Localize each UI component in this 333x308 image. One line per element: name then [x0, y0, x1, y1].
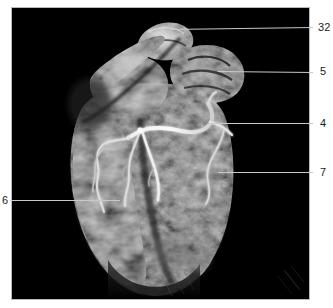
leader-line-7[interactable]: [218, 172, 313, 173]
leader-line-4[interactable]: [208, 123, 313, 124]
label-6[interactable]: 6: [2, 195, 8, 206]
cardiac-image-panel[interactable]: [11, 7, 310, 300]
label-4[interactable]: 4: [320, 118, 326, 129]
label-7[interactable]: 7: [320, 167, 326, 178]
left-shoulder-tissue: [68, 78, 112, 130]
label-5[interactable]: 5: [320, 66, 326, 77]
inferior-bright-patch-b: [185, 249, 211, 271]
coronary-bifurcation-node: [137, 127, 142, 132]
figure-root: 32 5 4 7 6: [0, 0, 333, 308]
volume-render-canvas: [12, 8, 309, 299]
label-32[interactable]: 32: [318, 22, 331, 33]
inferior-bright-patch-c: [126, 261, 146, 279]
leader-line-6[interactable]: [10, 200, 120, 201]
